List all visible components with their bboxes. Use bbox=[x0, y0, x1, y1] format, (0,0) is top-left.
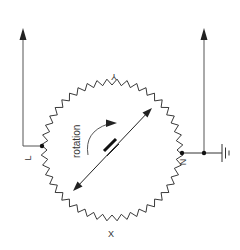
label-X: X bbox=[108, 229, 114, 239]
node-L bbox=[40, 144, 44, 148]
ground-icon bbox=[222, 144, 229, 162]
left-output-arrow-icon bbox=[20, 28, 27, 40]
right-output-arrow-icon bbox=[201, 28, 208, 40]
left-lead-wire bbox=[20, 28, 43, 146]
label-rotation: rotation bbox=[71, 125, 82, 158]
node-N bbox=[180, 151, 184, 155]
label-N: N bbox=[178, 159, 188, 166]
right-lead-wire bbox=[182, 28, 222, 155]
wiper bbox=[73, 108, 152, 191]
rotation-arrow-icon bbox=[106, 120, 117, 128]
label-L: L bbox=[23, 155, 33, 160]
junction-dot bbox=[202, 151, 206, 155]
label-Y: Y bbox=[111, 72, 117, 82]
potentiometer-diagram: rotation Y L N X bbox=[0, 0, 240, 250]
